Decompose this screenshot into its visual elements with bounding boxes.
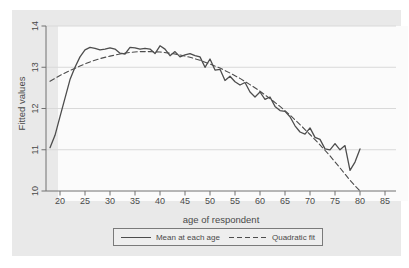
x-tick-label-40: 40 xyxy=(155,196,165,206)
legend-item-quadratic: Quadratic fit xyxy=(229,233,315,242)
x-tick-label-50: 50 xyxy=(205,196,215,206)
legend-label-mean: Mean at each age xyxy=(156,233,220,242)
y-tick-label-11: 11 xyxy=(30,145,40,154)
legend-item-mean: Mean at each age xyxy=(121,233,220,242)
y-tick-label-13: 13 xyxy=(30,62,40,72)
x-tick-label-55: 55 xyxy=(230,196,240,206)
legend: Mean at each age Quadratic fit xyxy=(113,228,323,246)
legend-label-quadratic: Quadratic fit xyxy=(272,233,315,242)
x-tick-label-65: 65 xyxy=(280,196,290,206)
x-axis-title: age of respondent xyxy=(121,213,321,226)
x-tick-label-45: 45 xyxy=(180,196,190,206)
dashed-line-sample xyxy=(229,237,267,238)
x-tick-label-70: 70 xyxy=(305,196,315,206)
x-tick-label-60: 60 xyxy=(255,196,265,206)
solid-line-sample xyxy=(121,237,151,238)
series-quadratic-fit xyxy=(50,52,360,191)
x-tick-label-75: 75 xyxy=(330,196,340,206)
x-tick-label-25: 25 xyxy=(80,196,90,206)
x-tick-label-85: 85 xyxy=(380,196,390,206)
y-tick-label-12: 12 xyxy=(30,103,40,113)
x-tick-label-30: 30 xyxy=(105,196,115,206)
x-tick-label-35: 35 xyxy=(130,196,140,206)
y-tick-label-10: 10 xyxy=(30,186,40,196)
x-tick-label-80: 80 xyxy=(355,196,365,206)
y-axis-title: Fitted values xyxy=(15,24,28,184)
y-tick-label-14: 14 xyxy=(30,21,40,31)
x-tick-label-20: 20 xyxy=(55,196,65,206)
